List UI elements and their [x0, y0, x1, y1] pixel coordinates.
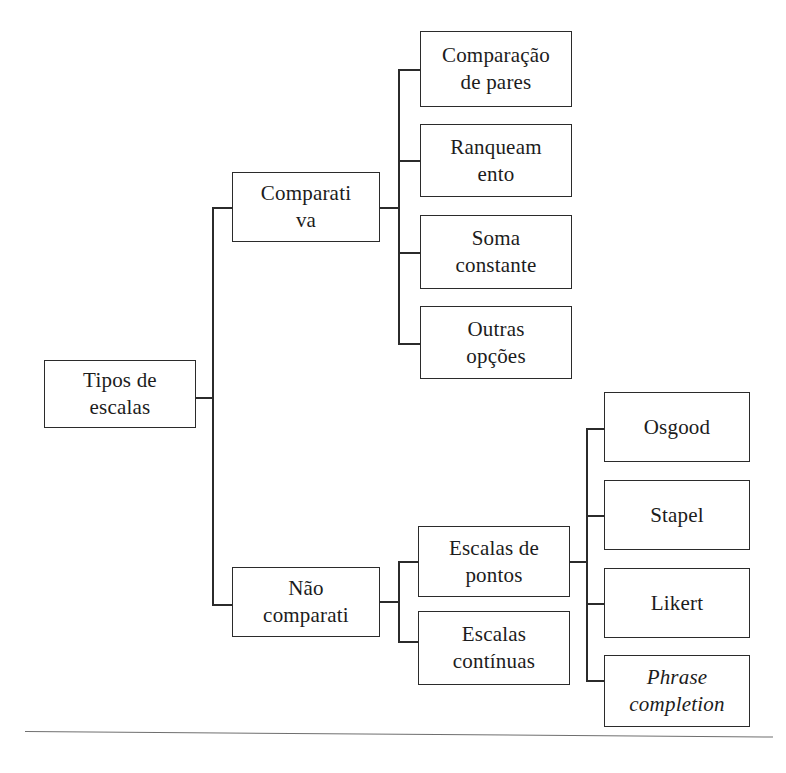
node-stapel: Stapel — [604, 480, 750, 550]
edge-to-escalas-de-pontos — [398, 561, 420, 563]
node-soma-constante: Soma constante — [420, 215, 572, 289]
edge-to-outras-opcoes — [398, 343, 420, 345]
node-label: Comparação de pares — [442, 42, 550, 96]
edge-right-column-spine — [586, 428, 588, 680]
edge-to-ranqueamento — [398, 160, 420, 162]
node-comparacao-de-pares: Comparação de pares — [420, 31, 572, 107]
node-osgood: Osgood — [604, 392, 750, 462]
edge-to-escalas-continuas — [398, 641, 420, 643]
edge-nao-comparativa-stub — [380, 601, 400, 603]
node-ranqueamento: Ranqueam ento — [420, 124, 572, 197]
node-label: Escalas contínuas — [453, 621, 535, 675]
node-label: Phrase completion — [629, 664, 724, 718]
node-escalas-continuas: Escalas contínuas — [418, 611, 570, 685]
node-tipos-de-escalas: Tipos de escalas — [44, 360, 196, 428]
edge-to-comparacao-de-pares — [398, 69, 420, 71]
scale-types-diagram: Tipos de escalas Comparati va Comparação… — [0, 0, 786, 773]
edge-to-osgood — [586, 428, 606, 430]
node-label: Osgood — [644, 414, 711, 441]
edge-main-trunk — [212, 207, 214, 606]
node-label: Outras opções — [466, 316, 526, 370]
node-label: Escalas de pontos — [449, 535, 539, 589]
node-phrase-completion: Phrase completion — [604, 655, 750, 727]
edge-to-phrase-completion — [586, 680, 606, 682]
node-escalas-de-pontos: Escalas de pontos — [418, 526, 570, 597]
node-label: Comparati va — [261, 180, 351, 234]
edge-trunk-to-comparativa — [212, 207, 234, 209]
footer-divider-rule — [25, 731, 773, 737]
node-label: Likert — [651, 590, 704, 617]
edge-nao-comparativa-spine — [398, 561, 400, 642]
node-label: Ranqueam ento — [450, 134, 541, 188]
node-label: Não comparati — [263, 575, 349, 629]
edge-to-soma-constante — [398, 252, 420, 254]
edge-comparativa-stub — [380, 207, 400, 209]
edge-trunk-to-nao-comparativa — [212, 604, 234, 606]
node-comparativa: Comparati va — [232, 172, 380, 242]
edge-to-likert — [586, 603, 606, 605]
node-label: Stapel — [650, 502, 704, 529]
edge-comparativa-spine — [398, 69, 400, 344]
node-label: Soma constante — [455, 225, 536, 279]
node-outras-opcoes: Outras opções — [420, 306, 572, 379]
node-label: Tipos de escalas — [83, 367, 157, 421]
edge-to-stapel — [586, 515, 606, 517]
node-likert: Likert — [604, 568, 750, 638]
node-nao-comparativa: Não comparati — [232, 567, 380, 637]
